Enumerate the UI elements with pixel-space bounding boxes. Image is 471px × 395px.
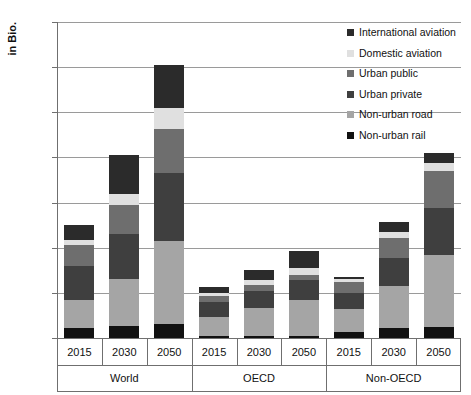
x-axis-group-separator (326, 339, 327, 391)
bar-segment-international-aviation (424, 153, 454, 163)
legend-item: Non-urban road (347, 106, 456, 123)
legend-label: Urban private (359, 89, 422, 100)
bar-segment-urban-private (154, 173, 184, 241)
x-axis-category-band: 201520302050201520302050201520302050 Wor… (57, 339, 461, 391)
x-axis-group-separator (460, 339, 461, 391)
bar-segment-non-urban-road (154, 241, 184, 325)
bar-segment-non-urban-rail (199, 336, 229, 338)
bar-world-2050 (154, 65, 184, 338)
x-axis-year-label: 2030 (237, 339, 282, 365)
bar-segment-urban-private (424, 208, 454, 254)
legend-label: International aviation (359, 27, 456, 38)
bar-segment-domestic-aviation (154, 108, 184, 129)
bar-segment-urban-public (334, 282, 364, 293)
bar-segment-urban-private (64, 266, 94, 300)
bar-segment-non-urban-road (199, 317, 229, 336)
bar-non-oecd-2030 (379, 222, 409, 338)
bar-segment-urban-public (154, 129, 184, 173)
bar-segment-non-urban-road (379, 286, 409, 328)
x-axis-year-separator (102, 339, 103, 365)
bar-segment-urban-private (199, 302, 229, 317)
x-axis-year-label: 2030 (102, 339, 147, 365)
legend-item: Urban public (347, 65, 456, 82)
bar-segment-international-aviation (199, 287, 229, 293)
bar-segment-non-urban-rail (154, 324, 184, 338)
bar-segment-domestic-aviation (334, 279, 364, 281)
bar-non-oecd-2050 (424, 153, 454, 338)
bar-segment-non-urban-rail (289, 336, 319, 338)
x-axis-year-label: 2050 (147, 339, 192, 365)
legend-swatch-icon (347, 70, 354, 77)
bar-oecd-2030 (244, 270, 274, 338)
bar-world-2015 (64, 225, 94, 338)
bar-segment-domestic-aviation (289, 268, 319, 275)
bar-segment-international-aviation (289, 251, 319, 268)
bar-oecd-2015 (199, 287, 229, 338)
bar-segment-non-urban-rail (424, 327, 454, 338)
legend-label: Domestic aviation (359, 48, 442, 59)
bar-segment-non-urban-road (244, 308, 274, 336)
bar-segment-non-urban-rail (334, 332, 364, 338)
bar-segment-non-urban-road (109, 279, 139, 325)
legend-label: Non-urban road (359, 109, 433, 120)
x-axis-year-label: 2030 (371, 339, 416, 365)
bar-segment-non-urban-road (424, 255, 454, 327)
bar-segment-urban-private (109, 234, 139, 279)
x-axis-year-label: 2050 (281, 339, 326, 365)
bar-segment-urban-public (64, 245, 94, 265)
x-axis-year-label: 2015 (57, 339, 102, 365)
bar-segment-international-aviation (244, 270, 274, 280)
x-axis-year-label: 2015 (192, 339, 237, 365)
bar-non-oecd-2015 (334, 277, 364, 338)
bar-segment-domestic-aviation (379, 232, 409, 238)
bar-oecd-2050 (289, 251, 319, 338)
bar-segment-urban-public (244, 285, 274, 291)
legend-item: Non-urban rail (347, 127, 456, 144)
legend-item: Domestic aviation (347, 45, 456, 62)
bar-segment-urban-private (244, 291, 274, 308)
bar-segment-non-urban-road (289, 300, 319, 336)
x-axis-group-label: World (57, 365, 192, 391)
legend-swatch-icon (347, 91, 354, 98)
x-axis-year-label: 2050 (416, 339, 461, 365)
x-axis-year-separator (281, 339, 282, 365)
x-axis-group-separator (192, 339, 193, 391)
bar-segment-urban-private (379, 258, 409, 286)
bar-segment-urban-public (289, 275, 319, 281)
bar-segment-domestic-aviation (199, 293, 229, 296)
x-axis-group-separator (57, 339, 58, 391)
bar-segment-non-urban-rail (109, 326, 139, 338)
x-axis-group-label: OECD (192, 365, 327, 391)
legend-item: Urban private (347, 86, 456, 103)
legend-swatch-icon (347, 132, 354, 139)
stacked-bar-chart: in Bio. 020406080100120140 2015203020502… (0, 0, 471, 395)
legend-swatch-icon (347, 50, 354, 57)
legend-swatch-icon (347, 111, 354, 118)
bar-segment-urban-public (109, 205, 139, 234)
x-axis-year-separator (147, 339, 148, 365)
bar-segment-non-urban-road (64, 300, 94, 328)
x-axis-year-row: 201520302050201520302050201520302050 (57, 339, 461, 366)
x-axis-year-separator (371, 339, 372, 365)
legend-item: International aviation (347, 24, 456, 41)
legend-swatch-icon (347, 29, 354, 36)
bar-segment-domestic-aviation (109, 194, 139, 205)
bar-segment-non-urban-road (334, 309, 364, 333)
x-axis-year-label: 2015 (326, 339, 371, 365)
legend-label: Urban public (359, 68, 418, 79)
legend-label: Non-urban rail (359, 130, 426, 141)
bar-segment-urban-private (334, 293, 364, 309)
bar-segment-non-urban-rail (379, 328, 409, 338)
bar-segment-international-aviation (379, 222, 409, 232)
x-axis-year-separator (416, 339, 417, 365)
x-axis-group-label: Non-OECD (326, 365, 461, 391)
legend: International aviationDomestic aviationU… (347, 24, 456, 147)
bar-segment-international-aviation (334, 277, 364, 279)
bar-segment-international-aviation (64, 225, 94, 240)
bar-segment-domestic-aviation (424, 163, 454, 171)
x-axis-year-separator (237, 339, 238, 365)
bar-segment-non-urban-rail (64, 328, 94, 338)
x-axis-group-row: WorldOECDNon-OECD (57, 365, 461, 392)
y-axis-title: in Bio. (6, 22, 22, 56)
bar-segment-international-aviation (109, 155, 139, 193)
